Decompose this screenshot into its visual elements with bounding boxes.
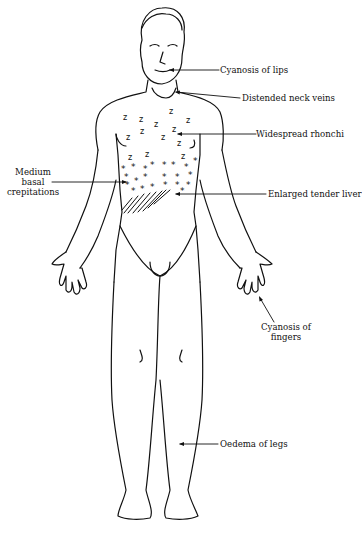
label-medium-basal-crepitations: Medium basal crepitations [6,167,60,197]
svg-text:*: * [140,184,145,194]
arms-outline [66,150,256,268]
leader-fingers [260,298,274,322]
label-crepitations-line-2: basal [6,177,60,187]
label-cyanosis-of-fingers: Cyanosis of fingers [258,322,314,342]
arrow-heads [122,68,263,446]
svg-text:*: * [180,186,185,196]
liver-hatching [122,190,170,213]
svg-text:*: * [150,160,155,170]
svg-text:z: z [140,127,144,136]
svg-text:z: z [177,139,181,148]
label-crepitations-line-3: crepitations [6,187,60,197]
torso-outline [96,80,223,282]
svg-text:z: z [139,115,143,124]
label-cyanosis-of-lips: Cyanosis of lips [220,65,288,75]
svg-text:*: * [171,160,176,170]
hands-outline [52,252,272,294]
svg-text:*: * [163,180,168,190]
label-fingers-line-2: fingers [258,332,314,342]
label-distended-neck-veins: Distended neck veins [242,93,335,103]
svg-text:z: z [123,113,127,122]
svg-text:z: z [186,116,190,125]
leader-neck-veins [176,92,240,98]
svg-text:z: z [161,133,165,142]
svg-text:*: * [131,162,136,172]
svg-text:*: * [134,176,139,186]
label-widespread-rhonchi: Widespread rhonchi [256,129,344,139]
svg-text:*: * [186,180,191,190]
label-oedema-of-legs: Oedema of legs [220,439,288,449]
svg-text:z: z [126,133,130,142]
label-fingers-line-1: Cyanosis of [258,322,314,332]
svg-text:*: * [131,186,136,196]
label-crepitations-line-1: Medium [6,167,60,177]
svg-text:z: z [169,107,173,116]
svg-text:*: * [162,160,167,170]
svg-text:z: z [181,152,185,161]
svg-text:z: z [172,125,176,134]
crepitation-markers: **** **** **** **** **** ** [121,156,198,196]
svg-text:*: * [150,182,155,192]
svg-text:z: z [128,153,132,162]
leader-lines [52,70,274,444]
svg-text:*: * [193,156,198,166]
label-enlarged-tender-liver: Enlarged tender liver [268,189,362,199]
svg-text:*: * [188,170,193,180]
legs-outline [111,226,203,519]
svg-text:z: z [145,150,149,159]
svg-text:*: * [143,172,148,182]
svg-text:z: z [154,120,158,129]
head-outline [141,8,185,84]
